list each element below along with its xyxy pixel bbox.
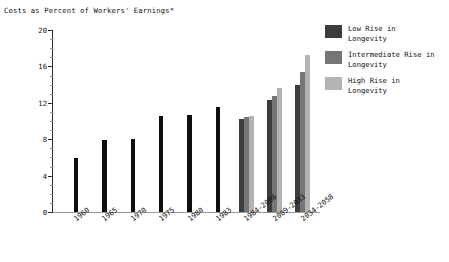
chart-title: Costs as Percent of Workers' Earnings* (4, 6, 174, 15)
bar-historical (216, 107, 221, 212)
bar-historical (187, 115, 192, 212)
y-major-tick (48, 139, 53, 140)
y-tick-label: 12 (38, 98, 47, 107)
legend-item: High Rise in Longevity (325, 76, 449, 95)
bar-projection (277, 88, 282, 212)
y-minor-tick (50, 94, 53, 95)
y-tick-label: 16 (38, 62, 47, 71)
legend-swatch (325, 25, 342, 38)
y-major-tick (48, 212, 53, 213)
y-minor-tick (50, 157, 53, 158)
bar-projection (249, 116, 254, 212)
chart-legend: Low Rise in LongevityIntermediate Rise i… (325, 24, 449, 102)
y-major-tick (48, 103, 53, 104)
y-minor-tick (50, 39, 53, 40)
plot-area: 048121620 (52, 30, 320, 212)
bar-historical (74, 158, 79, 212)
legend-swatch (325, 51, 342, 64)
legend-label: High Rise in Longevity (348, 76, 449, 95)
bar-historical (159, 116, 164, 212)
bar-historical (131, 139, 136, 212)
y-tick-label: 8 (43, 135, 47, 144)
y-minor-tick (50, 121, 53, 122)
bar-historical (102, 140, 107, 212)
y-tick-label: 20 (38, 26, 47, 35)
legend-item: Low Rise in Longevity (325, 24, 449, 43)
y-major-tick (48, 66, 53, 67)
y-minor-tick (50, 112, 53, 113)
legend-label: Low Rise in Longevity (348, 24, 449, 43)
y-minor-tick (50, 48, 53, 49)
y-tick-label: 4 (43, 171, 47, 180)
y-minor-tick (50, 130, 53, 131)
y-minor-tick (50, 76, 53, 77)
bar-chart: Costs as Percent of Workers' Earnings* 0… (0, 0, 449, 262)
y-minor-tick (50, 203, 53, 204)
y-major-tick (48, 176, 53, 177)
y-minor-tick (50, 185, 53, 186)
legend-item: Intermediate Rise in Longevity (325, 50, 449, 69)
y-minor-tick (50, 85, 53, 86)
legend-swatch (325, 77, 342, 90)
y-minor-tick (50, 148, 53, 149)
y-minor-tick (50, 194, 53, 195)
legend-label: Intermediate Rise in Longevity (348, 50, 449, 69)
bar-projection (305, 55, 310, 212)
y-major-tick (48, 30, 53, 31)
y-minor-tick (50, 167, 53, 168)
y-minor-tick (50, 57, 53, 58)
y-tick-label: 0 (43, 208, 47, 217)
